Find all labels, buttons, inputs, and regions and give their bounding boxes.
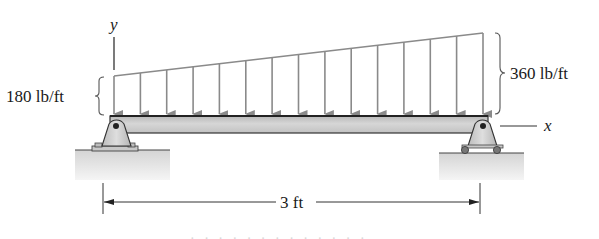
roller-wheel-icon bbox=[493, 146, 500, 153]
x-axis: x bbox=[500, 116, 552, 135]
dimension-arrow-left-icon bbox=[104, 199, 114, 205]
clipped-caption: · · · · · · · · · · · · · bbox=[190, 228, 420, 239]
pin-icon bbox=[480, 123, 486, 129]
right-intensity-annotation: 360 lb/ft bbox=[495, 33, 568, 114]
left-intensity-annotation: 180 lb/ft bbox=[6, 77, 104, 115]
left-ground bbox=[75, 150, 170, 180]
span-dimension: 3 ft bbox=[103, 183, 480, 214]
y-axis-label: y bbox=[108, 15, 118, 34]
right-intensity-label: 360 lb/ft bbox=[510, 64, 568, 83]
pin-icon bbox=[113, 123, 119, 129]
right-ground bbox=[439, 153, 524, 180]
y-axis: y bbox=[108, 15, 118, 70]
beam bbox=[110, 116, 488, 133]
span-label: 3 ft bbox=[280, 193, 303, 212]
beam-diagram: y 180 lb/ft 360 lb/ft bbox=[0, 0, 599, 239]
left-intensity-label: 180 lb/ft bbox=[6, 87, 64, 106]
left-brace-icon bbox=[95, 77, 104, 115]
roller-wheel-icon bbox=[461, 146, 468, 153]
x-axis-label: x bbox=[543, 116, 552, 135]
load-arrows bbox=[114, 33, 483, 114]
distributed-load bbox=[114, 33, 483, 114]
dimension-arrow-right-icon bbox=[469, 199, 479, 205]
right-brace-icon bbox=[495, 33, 505, 114]
